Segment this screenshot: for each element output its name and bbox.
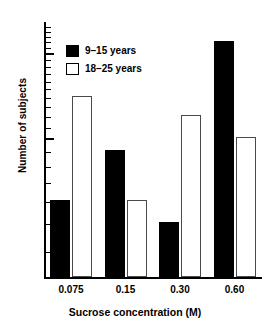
x-tick-label: 0.075 — [45, 284, 97, 295]
y-tick-minor — [46, 167, 51, 168]
x-tick-label: 0.30 — [154, 284, 206, 295]
y-tick-minor — [46, 74, 51, 75]
y-tick-minor — [46, 89, 51, 90]
legend-item: 18–25 years — [66, 61, 142, 76]
legend: 9–15 years18–25 years — [66, 43, 142, 79]
y-tick-minor — [46, 183, 51, 184]
x-tick-label: 0.60 — [209, 284, 261, 295]
legend-swatch-open-icon — [66, 63, 79, 75]
bar-chart: Number of subjects 1020 0.0750.150.300.6… — [0, 0, 270, 330]
y-tick-minor — [46, 82, 51, 83]
y-tick-major — [46, 53, 54, 55]
y-tick-minor — [46, 60, 51, 61]
y-tick-minor — [46, 32, 51, 33]
bar — [105, 150, 125, 277]
y-tick-major — [46, 138, 54, 140]
x-tick-label: 0.15 — [100, 284, 152, 295]
y-axis-title: Number of subjects — [17, 46, 28, 206]
bar — [214, 41, 234, 278]
legend-label: 18–25 years — [85, 63, 142, 74]
y-tick-minor — [46, 107, 51, 108]
x-axis-title: Sucrose concentration (M) — [0, 306, 270, 318]
bar — [50, 200, 70, 277]
y-tick-minor — [46, 27, 51, 28]
y-tick-minor — [46, 48, 51, 49]
legend-swatch-filled-icon — [66, 45, 79, 57]
y-tick-minor — [46, 117, 51, 118]
bar — [159, 222, 179, 277]
y-tick-minor — [46, 128, 51, 129]
x-axis-line — [44, 277, 262, 279]
y-tick-minor — [46, 37, 51, 38]
bar — [236, 137, 256, 277]
legend-label: 9–15 years — [85, 45, 136, 56]
y-tick-minor — [46, 67, 51, 68]
legend-item: 9–15 years — [66, 43, 142, 58]
y-tick-minor — [46, 42, 51, 43]
bar — [181, 115, 201, 277]
bar — [127, 200, 147, 277]
bar — [72, 96, 92, 277]
y-tick-minor — [46, 98, 51, 99]
y-tick-minor — [46, 152, 51, 153]
